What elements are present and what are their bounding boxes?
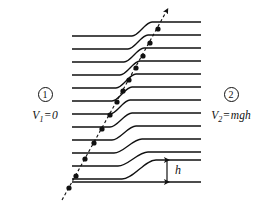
trajectory-dot <box>126 77 131 82</box>
region-1-potential-value: 0 <box>52 109 58 121</box>
potential-step-line <box>72 48 201 62</box>
region-1-equals-sign: = <box>43 109 52 121</box>
height-label: h <box>175 163 181 178</box>
potential-step-line <box>72 74 201 88</box>
potential-step-line <box>72 152 201 166</box>
region-2-marker: 2 <box>224 87 239 102</box>
region-1-marker: 1 <box>38 87 53 102</box>
trajectory-dot <box>66 185 71 190</box>
particle-trajectory-dashed-arrow <box>62 12 166 200</box>
region-2-equals-sign: = <box>222 109 231 121</box>
trajectory-dot <box>147 40 152 45</box>
trajectory-dot <box>140 53 145 58</box>
trajectory-dot <box>114 99 119 104</box>
trajectory-dot <box>82 156 87 161</box>
physics-diagram-figure: 1 V1=0 2 V2=mgh h <box>0 0 265 216</box>
potential-step-line <box>72 22 201 36</box>
potential-step-line <box>72 87 201 101</box>
region-1-label: 1 V1=0 <box>14 84 76 125</box>
region-2-potential-value: mgh <box>231 109 251 121</box>
region-2-label: 2 V2=mgh <box>198 84 264 125</box>
trajectory-dot <box>120 88 125 93</box>
region-2-potential-expression: V2=mgh <box>198 109 264 124</box>
region-1-potential-expression: V1=0 <box>14 109 76 124</box>
trajectory-dot <box>99 126 104 131</box>
potential-step-line <box>72 113 201 127</box>
potential-step-line <box>72 35 201 49</box>
trajectory-dot <box>133 65 138 70</box>
potential-step-line <box>72 126 201 140</box>
trajectory-dashed-line <box>62 12 166 200</box>
trajectory-dot <box>73 173 78 178</box>
potential-step-line <box>72 160 201 179</box>
potential-step-lines <box>72 22 201 182</box>
trajectory-dot <box>91 140 96 145</box>
trajectory-dot <box>107 112 112 117</box>
trajectory-dot <box>155 26 160 31</box>
potential-step-line <box>72 100 201 114</box>
